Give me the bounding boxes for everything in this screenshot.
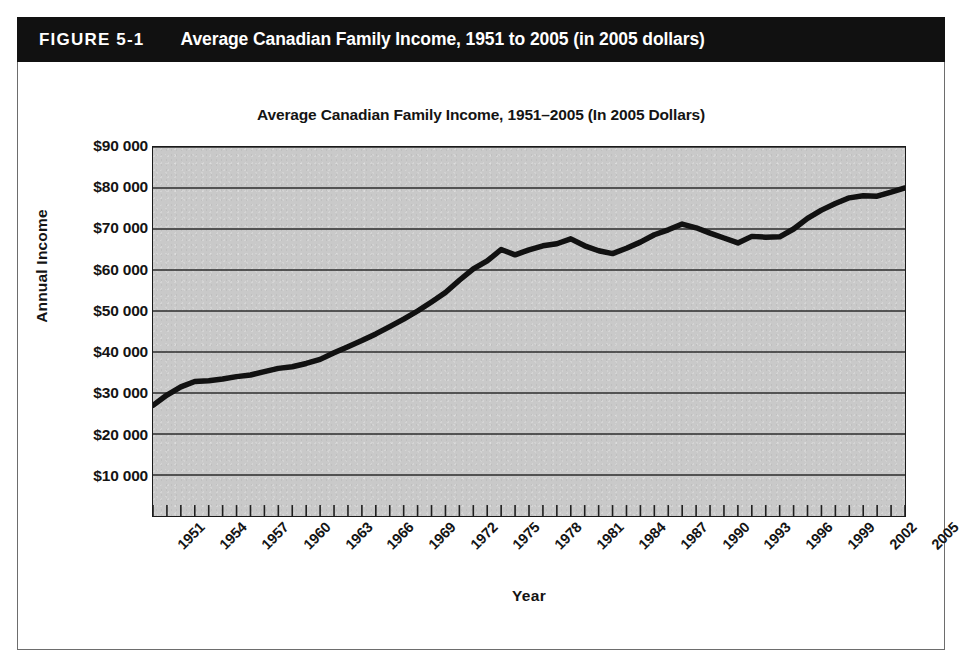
x-axis-tick-label: 1975 [509, 519, 543, 553]
x-axis-tick-label: 1993 [761, 519, 795, 553]
x-axis-tick-label: 1966 [384, 519, 418, 553]
x-axis-tick-label: 1996 [803, 519, 837, 553]
y-axis-tick-label: $20 000 [40, 426, 148, 444]
chart-area: Average Canadian Family Income, 1951–200… [17, 62, 945, 650]
x-axis-tick-label: 2005 [928, 519, 960, 553]
figure-number-label: FIGURE 5-1 [39, 30, 145, 50]
y-axis-tick-label: $10 000 [40, 467, 148, 485]
x-axis-tick-label: 1954 [216, 519, 250, 553]
x-axis-tick-label: 1963 [342, 519, 376, 553]
x-axis-tick-label: 1960 [300, 519, 334, 553]
x-axis-tick-label: 2002 [886, 519, 920, 553]
x-axis-tick-label: 1981 [593, 519, 627, 553]
x-axis-tick-label: 1972 [467, 519, 501, 553]
line-chart-svg [153, 147, 905, 516]
x-axis-tick-labels: 1951195419571960196319661969197219751978… [152, 519, 906, 594]
gridlines-group [153, 147, 905, 475]
x-axis-minor-ticks [153, 505, 905, 516]
x-axis-tick-label: 1969 [426, 519, 460, 553]
y-axis-tick-label: $80 000 [40, 178, 148, 196]
y-axis-tick-label: $30 000 [40, 384, 148, 402]
x-axis-tick-label: 1987 [677, 519, 711, 553]
y-axis-tick-label: $90 000 [40, 137, 148, 155]
y-axis-title: Annual Income [33, 206, 51, 326]
y-axis-tick-label: $60 000 [40, 261, 148, 279]
x-axis-tick-label: 1978 [551, 519, 585, 553]
y-axis-tick-label: $40 000 [40, 343, 148, 361]
x-axis-tick-label: 1999 [844, 519, 878, 553]
income-line-series [153, 188, 905, 405]
y-axis-tick-label: $50 000 [40, 302, 148, 320]
y-axis-tick-label: $70 000 [40, 219, 148, 237]
figure-caption: Average Canadian Family Income, 1951 to … [181, 29, 705, 50]
x-axis-tick-label: 1990 [719, 519, 753, 553]
x-axis-tick-label: 1984 [635, 519, 669, 553]
plot-area [152, 146, 906, 517]
chart-title: Average Canadian Family Income, 1951–200… [17, 106, 945, 124]
figure-header-bar: FIGURE 5-1 Average Canadian Family Incom… [17, 17, 945, 62]
x-axis-tick-label: 1951 [174, 519, 208, 553]
y-axis-tick-labels: $90 000$80 000$70 000$60 000$50 000$40 0… [33, 146, 148, 517]
x-axis-title: Year [152, 587, 906, 605]
x-axis-tick-label: 1957 [258, 519, 292, 553]
